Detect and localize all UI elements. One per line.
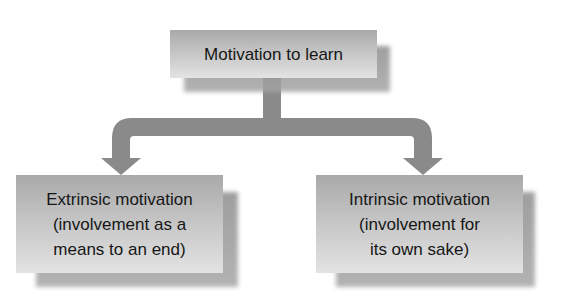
extrinsic-motivation-node: Extrinsic motivation (involvement as a m… xyxy=(16,175,223,273)
arrowhead-left xyxy=(101,158,141,175)
branch-bar xyxy=(112,118,432,160)
root-node-label: Motivation to learn xyxy=(204,42,343,67)
intrinsic-motivation-label: Intrinsic motivation (involvement for it… xyxy=(349,187,490,262)
root-node: Motivation to learn xyxy=(170,30,377,78)
arrowhead-right xyxy=(403,158,443,175)
intrinsic-motivation-node: Intrinsic motivation (involvement for it… xyxy=(316,175,523,273)
extrinsic-motivation-label: Extrinsic motivation (involvement as a m… xyxy=(46,187,192,262)
